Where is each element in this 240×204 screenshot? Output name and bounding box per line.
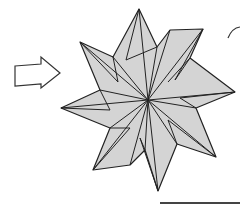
origami-diagram: Origami diagram step: arrow pointing to … <box>0 0 240 204</box>
curved-rotate-arrow-icon <box>228 27 240 38</box>
hollow-right-arrow-icon <box>15 57 60 88</box>
folded-star <box>61 9 235 191</box>
diagram-svg <box>0 0 240 204</box>
